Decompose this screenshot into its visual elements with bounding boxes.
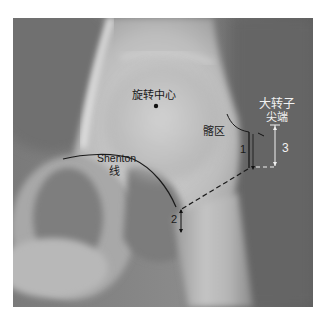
rotation-center-label: 旋转中心 [132, 90, 176, 101]
greater-trochanter-label-line1: 大转子 [259, 98, 295, 110]
measure-1-label: 1 [240, 144, 246, 155]
rotation-center-dot [154, 104, 158, 108]
measure-3-label: 3 [282, 142, 289, 154]
region-label: 髂区 [203, 126, 225, 137]
measure-2-label: 2 [171, 214, 177, 225]
greater-trochanter-label-line2: 尖端 [266, 112, 288, 123]
xray-image [13, 18, 313, 307]
shenton-line-label-cn: 线 [109, 166, 120, 177]
xray-figure: 旋转中心 髂区 大转子 尖端 Shenton 线 1 2 3 [13, 18, 313, 307]
shenton-line-label-en: Shenton [97, 153, 136, 164]
